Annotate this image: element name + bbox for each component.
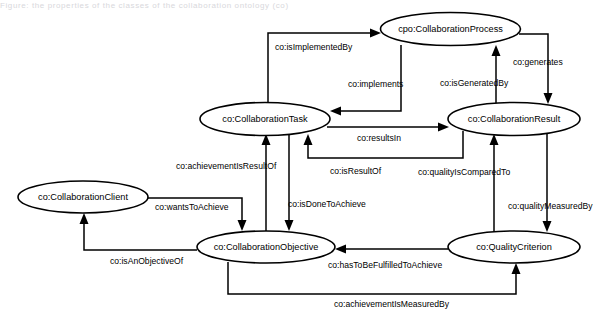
edge-quality-is-compared-to[interactable] — [490, 134, 499, 232]
edge-achievement-is-measured-by-arrowhead — [512, 263, 521, 274]
edge-is-done-to-achieve[interactable] — [285, 134, 294, 231]
edge-results-in[interactable] — [327, 123, 449, 132]
edge-quality-measured-by-arrowhead — [543, 221, 552, 232]
node-collaboration-task[interactable]: co:CollaborationTask — [200, 103, 330, 136]
node-collaboration-task-label: co:CollaborationTask — [222, 114, 308, 124]
edge-has-to-be-fulfilled-to-achieve-arrowhead — [335, 245, 346, 254]
edge-is-implemented-by[interactable] — [268, 29, 381, 104]
edge-is-an-objective-of-arrowhead — [80, 213, 89, 224]
node-collaboration-result[interactable]: co:CollaborationResult — [448, 103, 580, 136]
edge-label-wants-to-achieve: co:wantsToAchieve — [155, 202, 229, 212]
edge-label-is-an-objective-of: co:isAnObjectiveOf — [110, 256, 184, 266]
edge-implements-arrowhead — [330, 107, 341, 116]
node-collaboration-objective[interactable]: co:CollaborationObjective — [197, 231, 335, 263]
edge-label-is-result-of: co:isResultOf — [330, 166, 382, 176]
edge-label-is-done-to-achieve: co:isDoneToAchieve — [288, 199, 366, 209]
edge-is-generated-by[interactable] — [492, 45, 501, 104]
ontology-diagram: Figure: the properties of the classes of… — [0, 0, 614, 315]
edge-label-results-in: co:resultsIn — [357, 133, 401, 143]
edge-wants-to-achieve-arrowhead — [238, 220, 247, 231]
edge-is-result-of-arrowhead — [304, 134, 313, 145]
edge-implements-line — [338, 45, 401, 111]
edge-label-is-generated-by: co:isGeneratedBy — [440, 78, 509, 88]
edge-label-achievement-is-result-of: co:achievementIsResultOf — [176, 161, 277, 171]
edge-is-an-objective-of-line — [84, 222, 197, 250]
ontology-graph-canvas: cpo:CollaborationProcess co:Collaboratio… — [0, 0, 614, 315]
edge-label-implements: co:implements — [348, 79, 403, 89]
node-collaboration-client-label: co:CollaborationClient — [38, 192, 128, 202]
edge-is-an-objective-of[interactable] — [80, 213, 198, 250]
edge-has-to-be-fulfilled-to-achieve[interactable] — [335, 245, 448, 254]
edge-label-has-to-be-fulfilled-to-achieve: co:hasToBeFulfilledToAchieve — [328, 260, 442, 270]
node-collaboration-client[interactable]: co:CollaborationClient — [18, 181, 148, 213]
edge-quality-measured-by[interactable] — [543, 134, 552, 232]
edge-generates-arrowhead — [544, 93, 553, 104]
edge-label-is-implemented-by: co:isImplementedBy — [275, 42, 353, 52]
edge-label-generates: co:generates — [513, 57, 563, 67]
edge-results-in-arrowhead — [438, 123, 449, 132]
node-collaboration-objective-label: co:CollaborationObjective — [214, 242, 319, 252]
edge-achievement-is-result-of[interactable] — [262, 134, 271, 231]
edge-is-generated-by-arrowhead — [492, 45, 501, 56]
clipped-caption-text: Figure: the properties of the classes of… — [0, 0, 614, 11]
node-quality-criterion-label: co:QualityCriterion — [476, 242, 552, 252]
edge-is-implemented-by-arrowhead — [370, 29, 381, 38]
edge-label-quality-measured-by: co:qualityMeasuredBy — [508, 201, 593, 211]
node-collaboration-process-label: cpo:CollaborationProcess — [398, 24, 503, 34]
edge-label-group: co:isImplementedBy co:implements co:isGe… — [110, 42, 593, 309]
edge-label-quality-is-compared-to: co:qualityIsComparedTo — [418, 167, 510, 177]
node-collaboration-process[interactable]: cpo:CollaborationProcess — [381, 13, 521, 46]
node-collaboration-result-label: co:CollaborationResult — [468, 114, 561, 124]
edge-generates[interactable] — [519, 34, 553, 104]
edge-is-done-to-achieve-arrowhead — [285, 220, 294, 231]
edge-label-achievement-is-measured-by: co:achievementIsMeasuredBy — [334, 299, 450, 309]
node-quality-criterion[interactable]: co:QualityCriterion — [448, 231, 580, 263]
